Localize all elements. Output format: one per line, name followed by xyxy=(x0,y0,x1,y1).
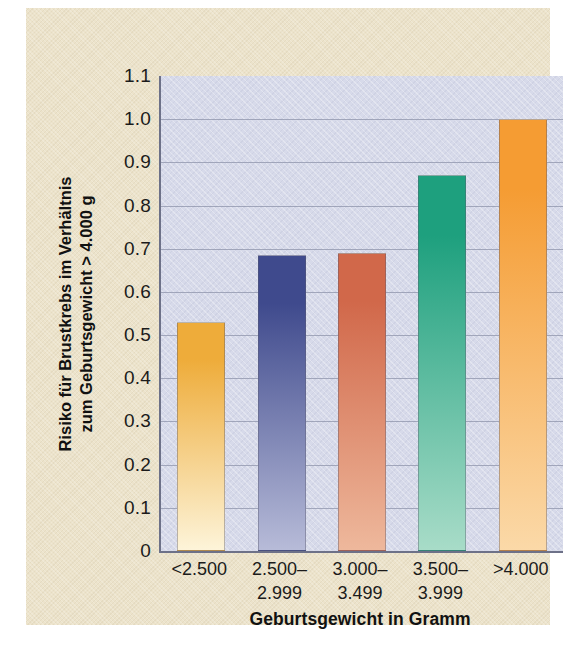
plot-area xyxy=(159,76,563,553)
y-axis-tick-label: 0.4 xyxy=(124,367,151,389)
x-axis-title: Geburtsgewicht in Gramm xyxy=(159,609,561,630)
x-axis-tick-line-1: 3.500– xyxy=(413,559,468,579)
x-axis-tick-label: 3.000–3.499 xyxy=(332,557,387,606)
y-axis-tick-label: 0.7 xyxy=(124,238,151,260)
y-axis-title-line-1: Risiko für Brustkrebs im Verhältnis xyxy=(55,176,76,451)
x-axis-tick-label: 3.500–3.999 xyxy=(413,557,468,606)
bar-series xyxy=(161,76,563,551)
x-axis-tick-label: >4.000 xyxy=(493,557,549,581)
y-axis-tick-label: 0.1 xyxy=(124,497,151,519)
bar xyxy=(499,119,547,551)
bar xyxy=(338,253,386,551)
y-axis-tick-label: 0.9 xyxy=(124,151,151,173)
y-axis-tick-label: 0.8 xyxy=(124,195,151,217)
y-axis-title: Risiko für Brustkrebs im Verhältnis zum … xyxy=(50,76,102,551)
y-axis-tick-label: 0.6 xyxy=(124,281,151,303)
y-axis-tick-label: 0.5 xyxy=(124,324,151,346)
y-axis-tick-label: 0.2 xyxy=(124,454,151,476)
x-axis-tick-line-2: 2.999 xyxy=(252,581,307,605)
y-axis-title-line-2: zum Geburtsgewicht > 4.000 g xyxy=(76,176,97,451)
y-axis-tick-label: 1.0 xyxy=(124,108,151,130)
x-axis-ticks: <2.5002.500–2.9993.000–3.4993.500–3.999>… xyxy=(159,557,561,613)
y-axis-tick-label: 1.1 xyxy=(124,65,151,87)
x-axis-tick-line-1: >4.000 xyxy=(493,559,549,579)
paper-panel: 00.10.20.30.40.50.60.70.80.91.01.1 Risik… xyxy=(26,8,550,625)
bar xyxy=(177,322,225,551)
x-axis-tick-line-2: 3.499 xyxy=(332,581,387,605)
bar xyxy=(258,255,306,551)
x-axis-tick-line-1: <2.500 xyxy=(171,559,227,579)
x-axis-tick-label: 2.500–2.999 xyxy=(252,557,307,606)
x-axis-tick-line-2: 3.999 xyxy=(413,581,468,605)
bar xyxy=(418,175,466,551)
x-axis-tick-label: <2.500 xyxy=(171,557,227,581)
x-axis-tick-line-1: 3.000– xyxy=(332,559,387,579)
y-axis-tick-label: 0.3 xyxy=(124,410,151,432)
figure: 00.10.20.30.40.50.60.70.80.91.01.1 Risik… xyxy=(0,0,576,649)
x-axis-tick-line-1: 2.500– xyxy=(252,559,307,579)
y-axis-tick-label: 0 xyxy=(140,540,151,562)
